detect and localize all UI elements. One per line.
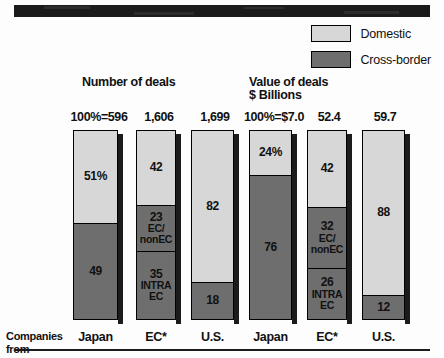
- seg-left-ec-domestic: 42: [137, 131, 175, 205]
- bar-shadow-right-us: [405, 134, 410, 324]
- bar-shadow-left-us: [234, 134, 239, 324]
- legend-label-domestic: Domestic: [360, 27, 411, 41]
- legend-swatch-domestic-icon: [311, 25, 351, 42]
- bar-shadow-left-ec: [176, 134, 181, 324]
- bar-left-ec: 42 23 EC/ nonEC 35 INTRA EC: [136, 130, 176, 320]
- seg-left-ec-intra-ec: 35 INTRA EC: [137, 251, 175, 319]
- total-right-ec: 52.4: [300, 110, 358, 124]
- category-right-us: U.S.: [362, 330, 405, 344]
- header-band: [14, 5, 430, 17]
- bar-shadow-right-japan: [292, 134, 297, 324]
- legend-swatch-crossborder-icon: [311, 51, 351, 68]
- seg-right-ec-domestic: 42: [308, 131, 346, 207]
- bar-shadow-right-ec: [347, 134, 352, 324]
- total-left-japan: 100%=596: [58, 110, 140, 124]
- bar-right-us: 88 12: [362, 130, 405, 320]
- seg-left-ec-ec-nonec: 23 EC/ nonEC: [137, 205, 175, 250]
- bar-right-ec: 42 32 EC/ nonEC 26 INTRA EC: [307, 130, 347, 320]
- bar-shadow-left-japan: [118, 134, 123, 324]
- panel-subtitle-right: $ Billions: [249, 88, 302, 102]
- axis-label-line1: Companies: [6, 330, 63, 343]
- axis-label-companies-from: Companies from: [6, 330, 63, 355]
- panel-title-left: Number of deals: [82, 75, 175, 89]
- legend: Domestic Cross-border: [311, 24, 431, 76]
- seg-right-japan-domestic: 24%: [250, 131, 291, 175]
- legend-item-domestic: Domestic: [311, 24, 431, 43]
- bar-left-us: 82 18: [191, 130, 234, 320]
- category-left-us: U.S.: [191, 330, 234, 344]
- total-left-ec: 1,606: [130, 110, 188, 124]
- legend-label-crossborder: Cross-border: [360, 53, 431, 67]
- footer-rule: [14, 349, 430, 351]
- seg-right-us-crossborder: 12: [363, 295, 404, 319]
- bar-left-japan: 51% 49: [73, 130, 118, 320]
- seg-right-ec-ec-nonec: 32 EC/ nonEC: [308, 207, 346, 268]
- seg-left-japan-domestic: 51%: [74, 131, 117, 223]
- category-left-ec: EC*: [136, 330, 176, 344]
- chart-page: Domestic Cross-border Number of deals Va…: [0, 0, 444, 358]
- category-right-ec: EC*: [307, 330, 347, 344]
- seg-left-us-domestic: 82: [192, 131, 233, 282]
- seg-right-us-domestic: 88: [363, 131, 404, 295]
- seg-right-ec-intra-ec: 26 INTRA EC: [308, 268, 346, 319]
- panel-title-right: Value of deals: [249, 75, 328, 89]
- category-left-japan: Japan: [73, 330, 118, 344]
- seg-left-us-crossborder: 18: [192, 282, 233, 319]
- total-right-us: 59.7: [356, 110, 414, 124]
- bar-right-japan: 24% 76: [249, 130, 292, 320]
- seg-right-japan-crossborder: 76: [250, 175, 291, 319]
- legend-item-crossborder: Cross-border: [311, 50, 431, 69]
- category-right-japan: Japan: [249, 330, 292, 344]
- seg-left-japan-crossborder: 49: [74, 223, 117, 319]
